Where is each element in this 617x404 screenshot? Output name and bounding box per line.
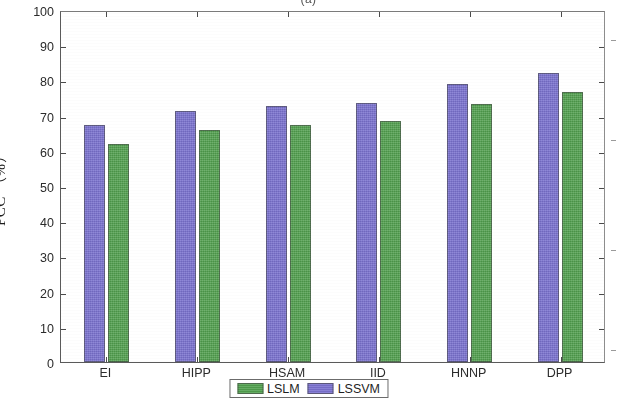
y-axis-tick-mark bbox=[61, 294, 66, 295]
x-axis-tick-mark-top bbox=[470, 12, 471, 17]
figure-caption-top: (a) bbox=[0, 0, 617, 6]
y-axis-tick-mark-right bbox=[599, 258, 604, 259]
x-axis-tick-mark-top bbox=[561, 12, 562, 17]
x-axis-tick-mark-top bbox=[288, 12, 289, 17]
bar-lslm-hipp bbox=[199, 130, 220, 362]
y-axis-tick-mark-right bbox=[599, 188, 604, 189]
y-axis-tick-label: 70 bbox=[14, 111, 61, 125]
x-axis-tick-mark-top bbox=[379, 12, 380, 17]
legend-swatch-lssvm-icon bbox=[308, 383, 334, 394]
y-axis-tick-mark bbox=[61, 118, 66, 119]
x-axis-tick-mark-top bbox=[197, 12, 198, 17]
bar-lssvm-iid bbox=[356, 103, 377, 362]
y-axis-tick-label: 60 bbox=[14, 146, 61, 160]
bar-lslm-iid bbox=[380, 121, 401, 362]
y-axis-tick-mark-right bbox=[599, 329, 604, 330]
scan-edge-tick bbox=[611, 250, 616, 251]
plot-area: 1009080706050403020100 bbox=[60, 11, 605, 363]
legend-label-lslm: LSLM bbox=[267, 382, 300, 396]
bar-lslm-dpp bbox=[562, 92, 583, 362]
y-axis-tick-label: 40 bbox=[14, 216, 61, 230]
y-axis-tick-mark bbox=[61, 329, 66, 330]
x-axis-tick-label: EI bbox=[100, 366, 112, 380]
legend-item-lssvm: LSSVM bbox=[308, 382, 380, 396]
bar-lssvm-hipp bbox=[175, 111, 196, 362]
y-axis-tick-label: 10 bbox=[14, 322, 61, 336]
x-axis-tick-mark-top bbox=[106, 12, 107, 17]
bar-lssvm-hsam bbox=[266, 106, 287, 362]
bar-lssvm-dpp bbox=[538, 73, 559, 362]
y-axis-tick-mark-right bbox=[599, 82, 604, 83]
y-axis-tick-label: 50 bbox=[14, 181, 61, 195]
y-axis-tick-label: 80 bbox=[14, 75, 61, 89]
scan-edge-tick bbox=[611, 40, 616, 41]
y-axis-tick-mark bbox=[61, 47, 66, 48]
y-axis-tick-mark bbox=[61, 188, 66, 189]
y-axis-tick-mark bbox=[61, 153, 66, 154]
bar-lslm-ei bbox=[108, 144, 129, 362]
y-axis-tick-mark-right bbox=[599, 118, 604, 119]
x-axis-tick-label: IID bbox=[370, 366, 386, 380]
figure-bar-chart: (a) PCC （%） 1009080706050403020100 EIHIP… bbox=[0, 0, 617, 404]
legend-label-lssvm: LSSVM bbox=[338, 382, 380, 396]
y-axis-tick-label: 0 bbox=[14, 357, 61, 371]
y-axis-label: PCC （%） bbox=[0, 148, 9, 226]
legend-swatch-lslm-icon bbox=[237, 383, 263, 394]
scan-texture-overlay bbox=[61, 12, 604, 362]
x-axis-tick-label: DPP bbox=[547, 366, 573, 380]
x-axis-tick-label: HNNP bbox=[451, 366, 486, 380]
y-axis-tick-mark-right bbox=[599, 294, 604, 295]
x-axis-tick-label: HSAM bbox=[269, 366, 305, 380]
y-axis-tick-label: 30 bbox=[14, 251, 61, 265]
bar-lssvm-ei bbox=[84, 125, 105, 362]
y-axis-tick-mark bbox=[61, 82, 66, 83]
bar-lssvm-hnnp bbox=[447, 84, 468, 362]
y-axis-tick-label: 100 bbox=[14, 5, 61, 19]
y-axis-tick-label: 90 bbox=[14, 40, 61, 54]
y-axis-tick-mark-right bbox=[599, 153, 604, 154]
legend-item-lslm: LSLM bbox=[237, 382, 300, 396]
y-axis-tick-mark-right bbox=[599, 47, 604, 48]
y-axis-tick-label: 20 bbox=[14, 287, 61, 301]
chart-legend: LSLM LSSVM bbox=[229, 379, 388, 398]
bar-lslm-hsam bbox=[290, 125, 311, 362]
y-axis-tick-mark-right bbox=[599, 223, 604, 224]
bar-lslm-hnnp bbox=[471, 104, 492, 362]
y-axis-tick-mark bbox=[61, 258, 66, 259]
scan-edge-tick bbox=[611, 350, 616, 351]
scan-edge-tick bbox=[611, 140, 616, 141]
x-axis-tick-label: HIPP bbox=[182, 366, 211, 380]
y-axis-tick-mark bbox=[61, 223, 66, 224]
